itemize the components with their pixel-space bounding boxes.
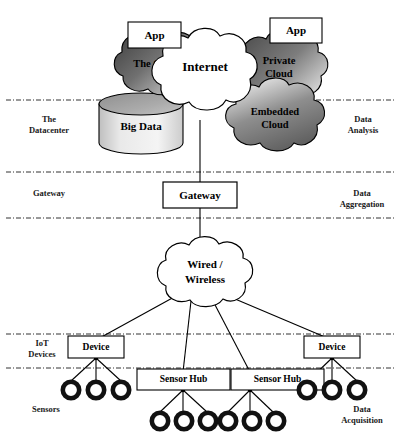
wired-wireless-cloud-shape[interactable]: Wired / Wireless bbox=[157, 237, 252, 307]
gateway-box[interactable]: Gateway bbox=[163, 182, 237, 208]
sensor-hub-2-label: Sensor Hub bbox=[254, 374, 302, 384]
app-left-box[interactable]: App bbox=[128, 22, 181, 48]
link-hub1-sensor3 bbox=[183, 390, 207, 412]
sensor-circle[interactable] bbox=[324, 382, 340, 398]
link-wired-deviceleft bbox=[96, 296, 176, 340]
sensor-circle[interactable] bbox=[268, 413, 284, 429]
sensor-circle[interactable] bbox=[200, 413, 216, 429]
layer-label-data-acquisition: Data Acquisition bbox=[326, 404, 398, 425]
app-right-label: App bbox=[286, 24, 306, 36]
link-wired-hub1 bbox=[183, 301, 191, 372]
link-hub2-sensor1 bbox=[228, 390, 250, 412]
link-deviceright-sensor3 bbox=[332, 358, 357, 381]
link-wired-deviceright bbox=[228, 296, 332, 340]
layer-label-sensors: Sensors bbox=[6, 404, 86, 415]
gateway-label: Gateway bbox=[179, 189, 221, 201]
device-right-box[interactable]: Device bbox=[304, 336, 360, 358]
private-cloud-label-line1: Private bbox=[263, 55, 296, 66]
app-left-label: App bbox=[144, 29, 164, 41]
layer-label-data-analysis: Data Analysis bbox=[330, 114, 396, 135]
embedded-cloud-label-line2: Cloud bbox=[261, 119, 289, 130]
iot-architecture-diagram: Big Data The Cloud Private Cloud Embedde… bbox=[0, 0, 401, 445]
layer-label-datacenter: The Datacenter bbox=[6, 114, 92, 135]
link-hub2-sensor3 bbox=[250, 390, 273, 412]
link-deviceleft-sensor3 bbox=[96, 358, 121, 381]
layer-label-gateway: Gateway bbox=[6, 188, 92, 199]
layer-label-iot-devices: IoT Devices bbox=[6, 338, 78, 359]
sensor-circle[interactable] bbox=[63, 382, 79, 398]
device-right-label: Device bbox=[319, 342, 346, 352]
layer-label-data-aggregation: Data Aggregation bbox=[326, 188, 398, 209]
link-hub1-sensor1 bbox=[160, 390, 183, 412]
sensor-circle[interactable] bbox=[88, 382, 104, 398]
diagram-canvas: Big Data The Cloud Private Cloud Embedde… bbox=[0, 0, 401, 445]
sensor-circle[interactable] bbox=[349, 382, 365, 398]
sensor-circle[interactable] bbox=[176, 413, 192, 429]
internet-label: Internet bbox=[182, 59, 228, 74]
app-right-box[interactable]: App bbox=[270, 18, 322, 43]
link-deviceleft-sensor1 bbox=[71, 358, 96, 381]
wired-wireless-label-line1: Wired / bbox=[187, 258, 223, 270]
sensor-circle[interactable] bbox=[152, 413, 168, 429]
sensor-circle[interactable] bbox=[299, 382, 315, 398]
sensor-hub-1-box[interactable]: Sensor Hub bbox=[137, 369, 230, 390]
sensor-circle[interactable] bbox=[220, 413, 236, 429]
sensor-circle[interactable] bbox=[244, 413, 260, 429]
embedded-cloud-label-line1: Embedded bbox=[251, 106, 300, 117]
device-left-label: Device bbox=[83, 342, 110, 352]
sensor-circle[interactable] bbox=[113, 382, 129, 398]
wired-wireless-label-line2: Wireless bbox=[185, 273, 226, 285]
link-wired-hub2 bbox=[213, 301, 250, 372]
big-data-label: Big Data bbox=[120, 120, 162, 132]
sensor-hub-1-label: Sensor Hub bbox=[160, 374, 208, 384]
